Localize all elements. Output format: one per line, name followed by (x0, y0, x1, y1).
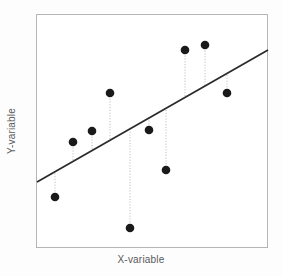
data-point (223, 89, 232, 98)
data-point (126, 224, 135, 233)
data-point (181, 46, 190, 55)
data-point (201, 41, 210, 50)
data-point (106, 89, 115, 98)
scatter-plot-figure: Y-variable X-variable (0, 0, 282, 276)
data-point (145, 126, 154, 135)
plot-canvas (0, 0, 282, 276)
data-point (51, 193, 60, 202)
y-axis-label-container: Y-variable (0, 14, 22, 248)
data-point (162, 166, 171, 175)
x-axis-label: X-variable (0, 254, 282, 265)
data-point (69, 138, 78, 147)
y-axis-label: Y-variable (6, 108, 17, 154)
data-point (88, 127, 97, 136)
